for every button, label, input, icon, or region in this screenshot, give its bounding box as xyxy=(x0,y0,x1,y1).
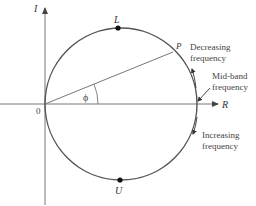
decreasing-freq-line2: frequency xyxy=(190,53,226,63)
phasor-line xyxy=(45,52,173,104)
decreasing-freq-line1: Decreasing xyxy=(190,42,231,52)
point-l-dot xyxy=(115,25,120,30)
point-label-p: P xyxy=(175,41,182,51)
angle-label: ϕ xyxy=(83,92,88,103)
increasing-freq-line1: Increasing xyxy=(202,130,240,140)
midband-freq-line1: Mid-band xyxy=(212,71,248,81)
increasing-freq-line2: frequency xyxy=(202,141,238,151)
point-u-dot xyxy=(117,177,122,182)
origin-label: 0 xyxy=(36,106,41,116)
axis-label-i: I xyxy=(33,3,38,14)
axis-label-r: R xyxy=(221,99,228,110)
angle-arc xyxy=(94,84,98,104)
midband-pointer xyxy=(198,88,210,101)
point-label-u: U xyxy=(115,185,123,196)
midband-freq-line2: frequency xyxy=(212,82,248,92)
point-label-l: L xyxy=(113,14,120,25)
circle-diagram: I R 0 L U P ϕ Decreasing frequency Mid-b… xyxy=(0,0,256,206)
